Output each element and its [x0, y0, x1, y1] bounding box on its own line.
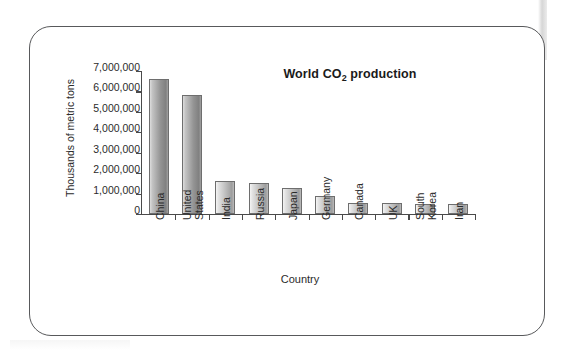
x-axis-category-line: Canada: [354, 183, 366, 220]
x-axis-tick-mark: [475, 215, 476, 220]
y-axis-tick-label: 3,000,000: [74, 144, 140, 154]
y-axis-tick-label: 6,000,000: [74, 82, 140, 92]
x-axis-tick-mark: [408, 215, 409, 220]
x-axis-tick-mark: [309, 215, 310, 220]
x-axis-category-label: India: [221, 197, 233, 220]
x-axis-tick-mark: [242, 215, 243, 220]
x-axis-category-label: UnitedStates: [182, 190, 205, 220]
x-axis-category-label: Canada: [354, 183, 366, 220]
x-axis-tick-mark: [375, 215, 376, 220]
y-axis-tick-label: 2,000,000: [74, 164, 140, 174]
x-axis-category-line: Korea: [427, 192, 439, 220]
y-axis-tick-mark: [136, 112, 141, 113]
x-axis-tick-mark: [342, 215, 343, 220]
y-axis-tick-mark: [136, 153, 141, 154]
page-scan-artifact-bottom: [10, 340, 130, 350]
x-axis-category-line: Germany: [321, 177, 333, 220]
x-axis-category-line: China: [155, 193, 167, 220]
y-axis-tick-mark: [136, 71, 141, 72]
x-axis-category-line: South: [415, 192, 427, 220]
x-axis-category-line: UK: [388, 205, 400, 220]
y-axis-tick-mark: [136, 91, 141, 92]
y-axis-tick-mark: [136, 173, 141, 174]
x-axis-tick-mark: [442, 215, 443, 220]
x-axis-category-label: Germany: [321, 177, 333, 220]
y-axis-tick-mark: [136, 194, 141, 195]
figure-frame: World CO2 production Thousands of metric…: [29, 26, 545, 336]
x-axis-tick-mark: [209, 215, 210, 220]
x-axis-category-line: Russia: [255, 188, 267, 220]
bar-chart: World CO2 production Thousands of metric…: [30, 27, 546, 337]
y-axis-tick-label: 1,000,000: [74, 185, 140, 195]
x-axis-category-line: Iran: [454, 202, 466, 220]
y-axis-tick-mark: [136, 132, 141, 133]
x-axis-tick-mark: [175, 215, 176, 220]
x-axis-category-label: China: [155, 193, 167, 220]
y-axis-tick-label: 7,000,000: [74, 62, 140, 72]
x-axis-category-label: Iran: [454, 202, 466, 220]
x-axis-category-line: Japan: [288, 191, 300, 220]
x-axis-category-line: United: [182, 190, 194, 220]
x-axis-category-line: States: [193, 190, 205, 220]
x-axis-category-label: UK: [388, 205, 400, 220]
x-axis-category-label: Japan: [288, 191, 300, 220]
x-axis-category-label: Russia: [255, 188, 267, 220]
x-axis-category-line: India: [221, 197, 233, 220]
x-axis-tick-mark: [275, 215, 276, 220]
y-axis-tick-mark: [136, 214, 141, 215]
y-axis-tick-label: 4,000,000: [74, 123, 140, 133]
x-axis-title: Country: [240, 273, 360, 285]
y-axis-tick-label: 5,000,000: [74, 103, 140, 113]
y-axis-tick-labels: 7,000,0006,000,0005,000,0004,000,0003,00…: [74, 67, 140, 217]
x-axis-category-label: SouthKorea: [415, 192, 438, 220]
y-axis-tick-label: 0: [74, 205, 140, 215]
